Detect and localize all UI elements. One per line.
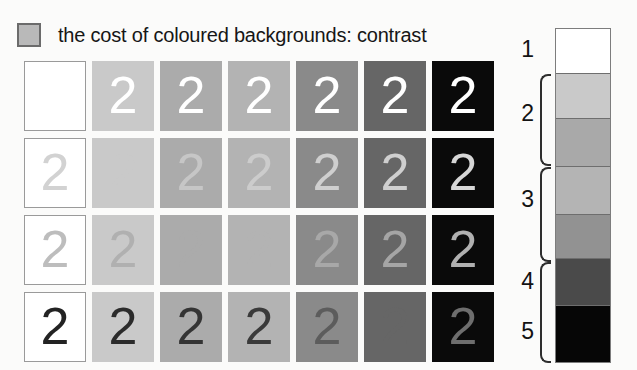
grid-cell: 2: [92, 215, 154, 285]
legend-band: [556, 29, 610, 73]
legend-band: [556, 305, 610, 362]
contrast-grid: 2222222222222222222222222222: [24, 61, 496, 361]
legend-bar: [555, 28, 611, 363]
grid-cell: 2: [364, 61, 426, 131]
grayscale-legend: 12345: [512, 28, 622, 363]
cell-digit: 2: [381, 223, 410, 275]
cell-digit: 2: [41, 300, 70, 352]
cell-digit: 2: [109, 223, 138, 275]
legend-label: 3: [512, 186, 534, 213]
cell-digit: 2: [109, 300, 138, 352]
page-title: the cost of coloured backgrounds: contra…: [58, 24, 427, 47]
grid-cell: 2: [92, 292, 154, 362]
grid-cell: 2: [24, 138, 86, 208]
legend-label: 2: [512, 100, 534, 127]
grid-cell: 2: [228, 61, 290, 131]
legend-band: [556, 214, 610, 259]
grid-cell: 2: [364, 138, 426, 208]
cell-digit: 2: [177, 146, 206, 198]
legend-band: [556, 73, 610, 118]
cell-digit: 2: [245, 146, 274, 198]
legend-label: 4: [512, 268, 534, 295]
cell-digit: 2: [381, 300, 410, 352]
figure-title-row: the cost of coloured backgrounds: contra…: [0, 18, 510, 52]
cell-digit: 2: [41, 69, 70, 121]
cell-digit: 2: [177, 69, 206, 121]
figure-root: the cost of coloured backgrounds: contra…: [0, 0, 637, 370]
grid-cell: 2: [24, 61, 86, 131]
cell-digit: 2: [313, 223, 342, 275]
cell-digit: 2: [381, 146, 410, 198]
grid-cell: 2: [160, 215, 222, 285]
cell-digit: 2: [177, 300, 206, 352]
grid-cell: 2: [160, 61, 222, 131]
cell-digit: 2: [449, 69, 478, 121]
cell-digit: 2: [41, 146, 70, 198]
grid-cell: 2: [296, 215, 358, 285]
grid-cell: 2: [24, 292, 86, 362]
legend-label: 1: [512, 36, 534, 63]
grid-cell: 2: [296, 292, 358, 362]
legend-brace: [540, 74, 551, 166]
cell-digit: 2: [381, 69, 410, 121]
grid-cell: 2: [24, 215, 86, 285]
legend-brace: [540, 262, 551, 363]
cell-digit: 2: [109, 69, 138, 121]
grid-cell: 2: [296, 138, 358, 208]
grid-cell: 2: [160, 138, 222, 208]
grid-cell: 2: [92, 138, 154, 208]
grid-cell: 2: [92, 61, 154, 131]
grid-cell: 2: [432, 292, 494, 362]
legend-label: 5: [512, 318, 534, 345]
cell-digit: 2: [245, 223, 274, 275]
cell-digit: 2: [245, 69, 274, 121]
cell-digit: 2: [41, 223, 70, 275]
legend-band: [556, 118, 610, 166]
grid-cell: 2: [364, 215, 426, 285]
legend-band: [556, 258, 610, 305]
bullet-swatch-icon: [17, 23, 41, 47]
grid-cell: 2: [432, 61, 494, 131]
grid-cell: 2: [364, 292, 426, 362]
cell-digit: 2: [449, 146, 478, 198]
cell-digit: 2: [177, 223, 206, 275]
cell-digit: 2: [313, 69, 342, 121]
cell-digit: 2: [313, 146, 342, 198]
grid-cell: 2: [296, 61, 358, 131]
grid-cell: 2: [228, 215, 290, 285]
grid-cell: 2: [228, 292, 290, 362]
grid-cell: 2: [160, 292, 222, 362]
legend-brace: [540, 167, 551, 262]
grid-cell: 2: [432, 138, 494, 208]
legend-band: [556, 166, 610, 214]
cell-digit: 2: [449, 300, 478, 352]
grid-cell: 2: [228, 138, 290, 208]
cell-digit: 2: [449, 223, 478, 275]
grid-cell: 2: [432, 215, 494, 285]
cell-digit: 2: [245, 300, 274, 352]
cell-digit: 2: [313, 300, 342, 352]
cell-digit: 2: [109, 146, 138, 198]
